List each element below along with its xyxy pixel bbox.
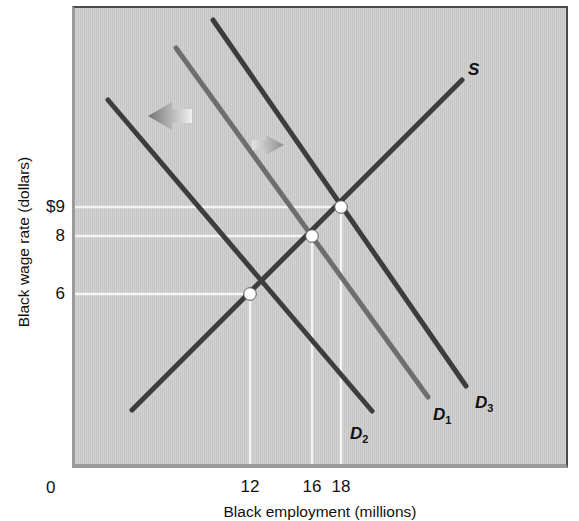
origin-label: 0 <box>46 478 55 498</box>
y-tick-label-6: 6 <box>5 284 65 304</box>
equilibrium-point-3 <box>335 201 348 214</box>
demand2-label-text: D <box>350 424 362 443</box>
y-tick-label-9: $9 <box>5 197 65 217</box>
demand3-label: D3 <box>475 393 493 414</box>
demand3-label-sub: 3 <box>487 402 493 414</box>
equilibrium-point-2 <box>306 230 319 243</box>
demand1-label: D1 <box>433 405 451 426</box>
demand2-label-sub: 2 <box>362 433 368 445</box>
demand2-curve <box>108 100 372 411</box>
x-tick-label-18: 18 <box>321 477 361 497</box>
demand3-label-text: D <box>475 393 487 412</box>
supply-label: S <box>468 60 479 80</box>
x-axis-title: Black employment (millions) <box>72 503 568 521</box>
x-tick-label-12: 12 <box>230 477 270 497</box>
y-axis-title: Black wage rate (dollars) <box>15 122 33 362</box>
equilibrium-point-1 <box>244 288 257 301</box>
demand1-label-sub: 1 <box>445 414 451 426</box>
supply-curve <box>132 80 462 410</box>
supply-label-text: S <box>468 60 479 79</box>
rightward-shift-arrow <box>252 135 284 155</box>
demand2-label: D2 <box>350 424 368 445</box>
demand1-label-text: D <box>433 405 445 424</box>
leftward-shift-arrow <box>148 102 192 130</box>
y-tick-label-8: 8 <box>5 226 65 246</box>
